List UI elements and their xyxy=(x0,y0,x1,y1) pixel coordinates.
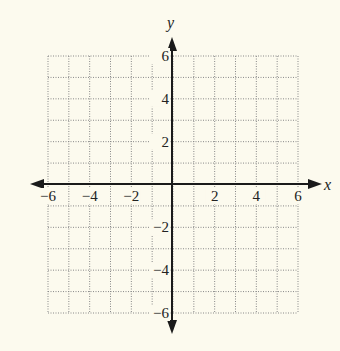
x-axis-label: x xyxy=(323,176,331,193)
x-tick-label: 6 xyxy=(294,188,302,204)
y-tick-label: 4 xyxy=(162,91,170,107)
y-tick-label: −2 xyxy=(153,219,169,235)
y-tick-label: 6 xyxy=(162,48,170,64)
x-tick-label: −4 xyxy=(82,188,98,204)
y-axis-label: y xyxy=(165,14,175,32)
y-tick-label: 2 xyxy=(162,134,170,150)
x-tick-label: −2 xyxy=(123,188,139,204)
y-tick-label: −6 xyxy=(153,305,169,321)
y-axis-bottom-arrow-icon xyxy=(167,320,177,334)
x-axis-right-arrow-icon xyxy=(308,179,322,189)
x-tick-label: 4 xyxy=(253,188,261,204)
axes xyxy=(30,37,322,334)
x-tick-label: 2 xyxy=(211,188,219,204)
coordinate-plane: x y −6−4−2246−6−4−2246 xyxy=(0,0,340,351)
x-tick-label: −6 xyxy=(40,188,56,204)
y-tick-label: −4 xyxy=(153,262,169,278)
